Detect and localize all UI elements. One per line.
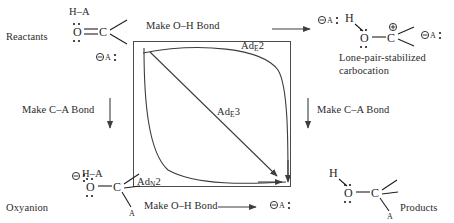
atom-A-oxyanion: A (129, 209, 135, 218)
structure-reactant: O C (73, 20, 127, 44)
atom-C-reactant: C (99, 25, 107, 39)
pathway-label-ade3: AdE3 (217, 106, 240, 119)
corner-label-reactants: Reactants (6, 31, 48, 42)
pathway-ade3-num: 3 (235, 106, 240, 117)
atom-C-oxyanion: C (113, 180, 121, 194)
pathway-ade3-text: Ad (217, 106, 230, 117)
atom-C-product: C (371, 186, 379, 200)
pathway-ade2-text: Ad (241, 40, 254, 51)
reagent-ha-top-left: H–A (69, 6, 90, 17)
counterion-a-bottom-middle: A (270, 201, 290, 210)
axis-label-bottom: Make O–H Bond (144, 200, 218, 211)
svg-text:A: A (279, 201, 285, 210)
pathway-label-adn2: AdN2 (137, 176, 161, 189)
reagent-ha-bottom-left: H–A (82, 168, 103, 179)
atom-H-product: H (329, 166, 338, 180)
structure-carbocation: H O C (345, 11, 414, 48)
svg-text:A: A (105, 53, 111, 62)
pathway-adn2-num: 2 (156, 176, 161, 187)
corner-label-carbocation-line1: Lone-pair-stabilized (339, 52, 426, 63)
atom-O-product: O (344, 186, 353, 200)
reaction-square-box (134, 42, 291, 187)
atom-A-product: A (387, 212, 393, 221)
counterion-a-top-right: A (421, 31, 441, 40)
pathway-adn2-text: Ad (137, 176, 150, 187)
corner-label-products: Products (400, 202, 438, 213)
pathway-label-ade2: AdE2 (241, 40, 264, 53)
axis-label-top: Make O–H Bond (146, 20, 220, 31)
atom-O-oxyanion: O (86, 180, 95, 194)
svg-text:A: A (430, 31, 436, 40)
atom-H-carbocation: H (345, 11, 354, 25)
pathway-ade2-num: 2 (259, 40, 264, 51)
atom-O-reactant: O (73, 25, 82, 39)
corner-label-oxyanion: Oxyanion (6, 202, 48, 213)
axis-label-left: Make C–A Bond (22, 104, 94, 115)
svg-text:A: A (327, 16, 333, 25)
counterion-a-top-middle: A (318, 16, 338, 25)
counterion-a-top-left: A (96, 53, 116, 62)
atom-O-carbocation: O (360, 31, 369, 45)
structure-product: H O C A (329, 166, 398, 221)
pathway-arrow-ade3 (150, 52, 277, 176)
pathway-curve-ade2 (143, 48, 288, 180)
atom-C-carbocation: C (387, 31, 395, 45)
pathway-curve-adn2 (144, 48, 286, 183)
structure-oxyanion: O C A (72, 172, 140, 218)
corner-label-carbocation-line2: carbocation (339, 65, 389, 76)
axis-label-right: Make C–A Bond (317, 104, 389, 115)
diagram-canvas: Reactants H–A Make O–H Bond Lone-pair-st… (0, 0, 454, 223)
